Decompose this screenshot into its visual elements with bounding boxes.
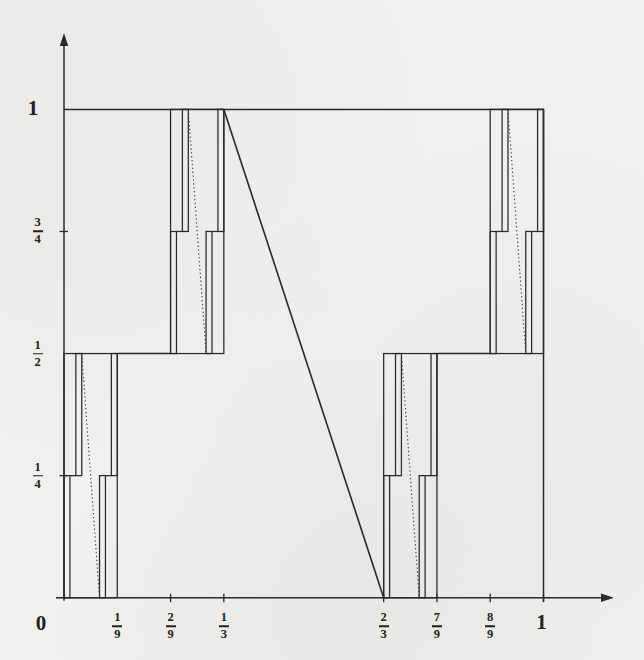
subrect-upper-left	[182, 109, 188, 231]
y-axis-arrowhead	[60, 33, 68, 46]
subrect-bottom-right	[431, 354, 437, 476]
subrect-upper-right	[502, 109, 508, 231]
subrect-bottom-right	[419, 476, 425, 598]
scanned-figure: 019291323798911412341	[0, 0, 644, 660]
subrect-bottom-left	[100, 476, 106, 598]
dotted-mini-diagonal-upper-right	[508, 109, 526, 353]
subrect-upper-right	[538, 109, 544, 231]
subrect-upper-right	[526, 231, 532, 353]
subrect-bottom-left	[64, 476, 70, 598]
subrect-bottom-left	[76, 354, 82, 476]
dotted-mini-diagonal-bottom-left	[82, 354, 100, 598]
subrect-upper-left	[206, 231, 212, 353]
subrect-bottom-right	[384, 476, 390, 598]
figure-svg	[0, 0, 644, 660]
dotted-mini-diagonal-bottom-right	[401, 354, 419, 598]
subrect-bottom-left	[111, 354, 117, 476]
main-diagonal	[224, 109, 384, 597]
x-axis-arrowhead	[601, 594, 614, 602]
subrect-bottom-right	[396, 354, 402, 476]
subrect-upper-left	[218, 109, 224, 231]
subrect-upper-right	[490, 231, 496, 353]
subrect-upper-left	[171, 231, 177, 353]
dotted-mini-diagonal-upper-left	[188, 109, 206, 353]
